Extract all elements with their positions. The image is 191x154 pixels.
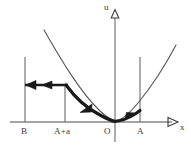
horizontal-arrow-head-outer	[26, 81, 37, 90]
y-axis-label: u	[104, 2, 109, 12]
potential-parabola-curve	[44, 30, 176, 121]
x-axis-label: x	[180, 122, 185, 132]
x-tick-label-A-plus-a: A+a	[54, 126, 70, 136]
x-tick-label-A: A	[137, 126, 144, 136]
horizontal-arrow-to-B	[25, 81, 68, 90]
horizontal-arrow-head-inner	[42, 81, 52, 89]
potential-well-diagram: u x B A+a O A	[0, 0, 191, 154]
y-axis-arrowhead	[111, 10, 119, 19]
x-tick-label-B: B	[21, 126, 27, 136]
x-axis-group	[10, 118, 178, 127]
diagram-canvas	[0, 0, 191, 154]
x-tick-label-origin: O	[104, 126, 111, 136]
